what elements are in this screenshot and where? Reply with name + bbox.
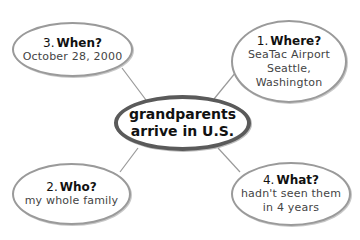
node-where-number: 1. <box>257 34 268 48</box>
node-what-answer-line-2: in 4 years <box>263 201 319 215</box>
node-when: 3.When? October 28, 2000 <box>12 22 133 77</box>
node-when-number: 3. <box>43 36 54 50</box>
node-who-question: 2.Who? <box>46 180 96 194</box>
node-when-question: 3.When? <box>43 36 102 50</box>
node-when-label: When? <box>57 36 102 50</box>
node-what-number: 4. <box>263 173 274 187</box>
cluster-map: 3.When? October 28, 2000 1.Where? SeaTac… <box>0 0 360 240</box>
node-what-question: 4.What? <box>263 173 319 187</box>
center-topic-line-1: grandparents <box>129 106 236 123</box>
node-what-label: What? <box>276 173 319 187</box>
node-what: 4.What? hadn't seen them in 4 years <box>231 162 351 226</box>
node-where-question: 1.Where? <box>257 34 321 48</box>
node-who-number: 2. <box>46 180 57 194</box>
node-who-label: Who? <box>60 180 97 194</box>
node-where-answer-line-2: Seattle, <box>267 62 311 76</box>
node-where-answer-line-1: SeaTac Airport <box>248 48 330 62</box>
connector-who <box>120 148 138 172</box>
center-topic: grandparents arrive in U.S. <box>114 95 251 151</box>
connector-where <box>214 72 236 99</box>
connector-when <box>122 68 146 100</box>
node-where: 1.Where? SeaTac Airport Seattle, Washing… <box>231 20 347 103</box>
connector-what <box>218 148 240 172</box>
node-where-label: Where? <box>270 34 321 48</box>
node-when-answer: October 28, 2000 <box>23 50 123 64</box>
node-who: 2.Who? my whole family <box>12 163 131 225</box>
node-who-answer: my whole family <box>25 194 119 208</box>
center-topic-line-2: arrive in U.S. <box>131 123 234 140</box>
node-where-answer-line-3: Washington <box>256 76 323 90</box>
node-what-answer-line-1: hadn't seen them <box>241 187 341 201</box>
